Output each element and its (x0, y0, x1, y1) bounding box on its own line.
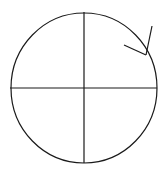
arrow-shaft (146, 26, 152, 55)
circle-diagram (0, 0, 166, 175)
arrow-head (124, 45, 146, 55)
